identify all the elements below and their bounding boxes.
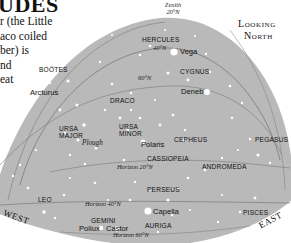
constellation-ursa-major-label: URSA MAJOR [59,125,85,139]
constellation-cepheus: CEPHEUS [174,136,207,143]
constellation-perseus: PERSEUS [147,186,180,193]
constellation-pegasus: PEGASUS [255,136,288,143]
star-castor: Castor [106,225,128,233]
constellation-ursa-minor: URSA MINOR [119,123,145,137]
star-vega: Vega [180,48,197,56]
constellation-draco: DRACO [110,97,135,104]
intro-line: aco coiled [0,30,47,42]
constellation-cygnus: CYGNUS [180,68,209,75]
star-arcturus: Arcturus [30,89,58,97]
latitude-label-60: 60°N [138,74,151,81]
constellation-bootes: BOÖTES [39,66,68,73]
star-chart: UDES r (the Little aco coiled ber) is nd… [0,0,291,243]
constellation-andromeda: ANDROMEDA [202,163,247,170]
horizon-label-20: Horizon 20°N [117,163,153,170]
orientation-label: Looking North [238,18,291,42]
asterism-plough: Plough [82,140,103,147]
star-pollux: Pollux [79,225,100,233]
intro-line: ber) is [0,44,29,56]
intro-line: r (the Little [0,15,52,27]
intro-text: r (the Little aco coiled ber) is nd eat [0,14,54,87]
star-polaris: Polaris [141,141,164,149]
orientation-line-1: Looking [238,18,291,30]
star-deneb: Deneb [181,88,203,96]
intro-line: nd [0,59,12,71]
star-capella: Capella [153,208,179,216]
constellation-ursa-major: URSA MAJOR [59,125,85,139]
intro-line: eat [0,73,13,85]
zenith-label: Zenith 20°N [158,1,188,15]
zenith-label-line-2: 20°N [158,8,188,15]
constellation-leo: LEO [38,196,52,203]
constellation-gemini: GEMINI [91,217,116,224]
orientation-line-2: North [238,30,291,42]
constellation-cassiopeia: CASSIOPEIA [147,155,189,162]
constellation-ursa-minor-label: URSA MINOR [119,123,145,137]
constellation-auriga: AURIGA [145,222,171,229]
constellation-pisces: PISCES [243,209,268,216]
constellation-hercules: HERCULES [142,36,180,43]
horizon-label-40: Horizon 40°N [85,200,121,207]
latitude-label-40: 40°N [153,44,166,51]
zenith-label-line-1: Zenith [158,1,188,8]
